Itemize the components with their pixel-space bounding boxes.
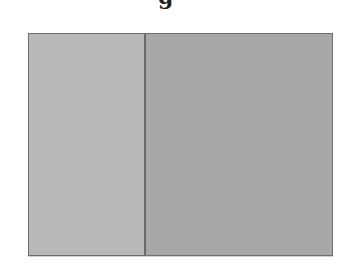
right-panel: [146, 34, 332, 255]
diagram-frame: [28, 33, 333, 256]
left-panel: [29, 34, 146, 255]
cropped-title-text: g: [158, 0, 173, 6]
